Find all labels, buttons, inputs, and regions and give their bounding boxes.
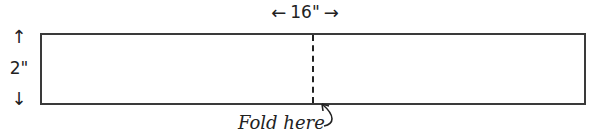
width-label: 16" [290, 2, 319, 22]
up-arrow-icon: ↑ [11, 28, 26, 46]
height-dimension: ↑ 2" ↓ [2, 28, 36, 108]
fold-here-label: Fold here [238, 112, 325, 133]
down-arrow-icon: ↓ [11, 90, 26, 108]
height-label: 2" [10, 58, 29, 78]
fold-dashed-line [312, 35, 314, 103]
left-arrow-icon: ← [271, 2, 286, 23]
right-arrow-icon: → [324, 2, 339, 23]
width-dimension: ← 16" → [250, 0, 360, 24]
